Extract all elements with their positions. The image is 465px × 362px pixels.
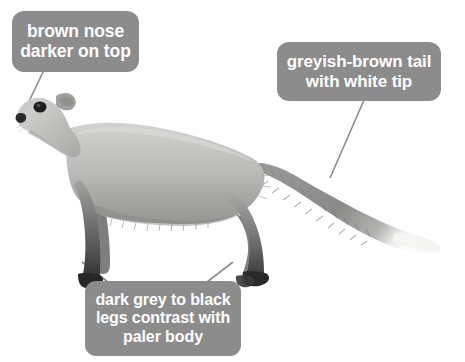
callout-nose: brown nose darker on top xyxy=(12,11,139,72)
callout-tail-line-1: greyish-brown tail xyxy=(287,52,432,71)
tail xyxy=(258,163,441,254)
callout-nose-line-1: brown nose xyxy=(27,22,124,42)
callout-legs-line-1: dark grey to black xyxy=(95,291,230,309)
callout-legs-line-2: legs contrast with xyxy=(96,309,230,327)
illustration-figure: brown nose darker on top greyish-brown t… xyxy=(0,0,465,362)
callout-tail: greyish-brown tail with white tip xyxy=(277,42,441,101)
callout-tail-line-2: with white tip xyxy=(306,72,412,91)
leader-line-leg-back xyxy=(207,262,233,282)
callout-nose-line-2: darker on top xyxy=(20,42,131,62)
callout-legs: dark grey to black legs contrast with pa… xyxy=(85,281,241,356)
leader-line-tail xyxy=(330,100,364,178)
callout-legs-line-3: paler body xyxy=(123,328,203,346)
eye xyxy=(34,102,47,113)
